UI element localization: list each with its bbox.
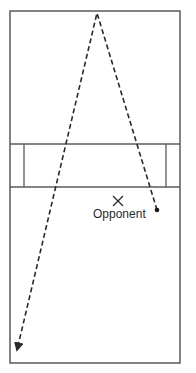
court-diagram — [0, 0, 196, 373]
opponent-label: Opponent — [93, 208, 146, 220]
opponent-x-icon — [113, 196, 123, 206]
player-dot-icon — [155, 208, 160, 213]
shot-path-dashed — [17, 13, 157, 350]
